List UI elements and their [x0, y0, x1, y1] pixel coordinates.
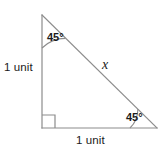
triangle-figure: 1 unit 1 unit x 45° 45° [0, 0, 165, 153]
label-bottom-side: 1 unit [76, 135, 105, 147]
triangle-drawing [0, 0, 165, 153]
right-angle-marker-icon [42, 115, 55, 128]
label-angle-bottom-right: 45° [126, 112, 143, 123]
label-left-side: 1 unit [4, 62, 33, 74]
label-angle-top: 45° [47, 32, 64, 43]
label-hypotenuse-x: x [102, 58, 108, 72]
